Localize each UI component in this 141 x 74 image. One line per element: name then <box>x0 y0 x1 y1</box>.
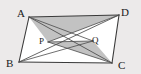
vertex-label-a: A <box>17 8 25 19</box>
vertex-label-c: C <box>118 60 125 71</box>
figure-container: A D C B P Q <box>0 0 141 74</box>
vertex-label-b: B <box>6 58 13 69</box>
vertex-label-d: D <box>121 7 129 18</box>
point-label-p: P <box>39 37 44 46</box>
point-label-q: Q <box>92 36 99 45</box>
